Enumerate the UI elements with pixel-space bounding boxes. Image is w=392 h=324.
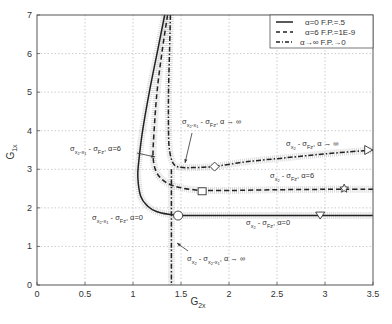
annotation-x2x1-alpha0: σx2-x1 - σFz, α=0 [92,213,143,225]
arrow-alphainf [185,133,192,163]
square-marker [198,188,206,195]
circle-marker [174,211,183,220]
y-tick-label: 7 [27,10,32,20]
chart: 00.511.522.533.501234567 G2x G1x σx2-x1 … [0,0,392,324]
y-tick-label: 0 [27,280,32,290]
series-markers [174,146,373,221]
x-tick-label: 0.5 [79,289,92,299]
legend-label-alpha6: α=6 F.P.=1E-9 [305,28,356,37]
x-tick-label: 2.5 [271,289,284,299]
annotation-x2x1-alphainf: σx2-x1 - σFz, α → ∞ [182,117,241,129]
scatter-band [168,15,214,168]
x-tick-label: 3.5 [367,289,380,299]
scatter-halo [138,15,373,285]
annotation-x2-eq-x2x1-alphainf: σx2 - σx2-x1, α → ∞ [187,254,245,266]
series-line-solid [171,215,373,216]
y-tick-label: 5 [27,87,32,97]
y-tick-label: 4 [27,126,32,136]
y-axis-label: G1x [5,144,18,160]
scatter-band [215,150,373,167]
y-tick-label: 6 [27,49,32,59]
x-axis-label: G2x [190,296,206,309]
x-tick-label: 1 [130,289,135,299]
annotation-x2-alpha0: σx2 - σFz, α=0 [246,218,290,230]
x-tick-label: 1.5 [175,289,188,299]
x-tick-label: 2 [226,289,231,299]
legend: α=0 F.P.=.5 α=6 F.P.=1E-9 α→∞ F.P.→0 [270,15,373,48]
arrowhead-icon [177,243,181,246]
x-tick-label: 0 [34,289,39,299]
annotation-x2-alpha6: σx2 - σFz, α=6 [270,171,314,183]
legend-label-alphainf: α→∞ F.P.→0 [300,38,346,47]
y-tick-label: 3 [27,164,32,174]
annotation-x2x1-alpha6: σx2-x1 - σFz, α=6 [70,144,121,156]
x-tick-label: 3 [322,289,327,299]
y-tick-label: 2 [27,203,32,213]
annotation-x2-alphainf: σx2 - σFz, α → ∞ [286,139,339,151]
legend-label-alpha0: α=0 F.P.=.5 [305,18,346,27]
y-tick-label: 1 [27,241,32,251]
series-line-dashdot [168,15,214,168]
series-line-dashdot [215,150,373,167]
